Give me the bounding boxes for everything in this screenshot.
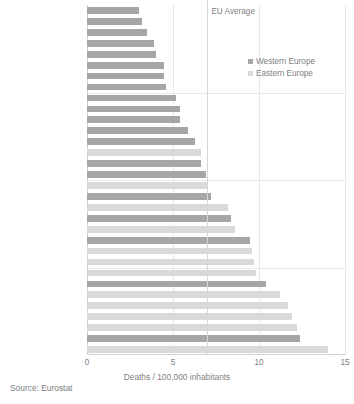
bar-germany[interactable] [87,62,164,69]
bar-poland[interactable] [87,302,288,309]
bar-malta[interactable] [87,29,147,36]
bar-greece[interactable] [87,335,300,342]
legend-item-western[interactable]: Western Europe [248,55,315,67]
bar-row [87,248,345,255]
bar-iceland[interactable] [87,51,156,58]
bar-austria[interactable] [87,171,206,178]
x-tick-0: 0 [85,358,90,367]
bar-france[interactable] [87,138,195,145]
gridline-y-16 [87,180,345,181]
bar-row [87,106,345,113]
bar-lithuania[interactable] [87,313,292,320]
eu-average-label: EU Average [211,7,255,16]
bar-row [87,193,345,200]
legend-label-western: Western Europe [256,57,315,66]
bar-netherlands[interactable] [87,84,166,91]
bar-row [87,95,345,102]
source-note: Source: Eurostat [10,383,72,393]
bar-belgium[interactable] [87,215,231,222]
x-tick-15: 15 [340,358,349,367]
bar-row [87,29,345,36]
bar-italy[interactable] [87,193,211,200]
bar-row [87,313,345,320]
bar-row [87,40,345,47]
bar-sweden[interactable] [87,7,139,14]
bar-denmark[interactable] [87,127,188,134]
bar-estonia[interactable] [87,182,207,189]
bar-row [87,291,345,298]
bar-norway[interactable] [87,116,180,123]
bar-row [87,226,345,233]
bar-luxembourg[interactable] [87,95,176,102]
bar-row [87,182,345,189]
legend-swatch-eastern-icon [248,71,253,76]
bar-fyr-macedonia[interactable] [87,149,201,156]
bar-chart: EU Average SwedenUnited KingdomMaltaIrel… [0,0,354,404]
gridline-y-24 [87,268,345,269]
bar-row [87,18,345,25]
gridline-x-15 [345,5,346,355]
gridline-y-8 [87,93,345,94]
bar-row [87,335,345,342]
bar-latvia[interactable] [87,324,297,331]
bar-spain[interactable] [87,106,180,113]
bar-row [87,281,345,288]
bar-finland[interactable] [87,160,201,167]
chart-legend: Western Europe Eastern Europe [248,55,315,79]
legend-item-eastern[interactable]: Eastern Europe [248,67,315,79]
bar-row [87,171,345,178]
x-tick-10: 10 [254,358,263,367]
bar-switzerland[interactable] [87,73,164,80]
bar-hungary[interactable] [87,270,256,277]
bar-row [87,138,345,145]
bar-row [87,346,345,353]
bar-row [87,237,345,244]
bar-row [87,324,345,331]
legend-swatch-western-icon [248,59,253,64]
bar-row [87,127,345,134]
x-axis-line [87,354,345,355]
bar-row [87,204,345,211]
bar-row [87,116,345,123]
bar-row [87,259,345,266]
bar-united-kingdom[interactable] [87,18,142,25]
bar-cyprus[interactable] [87,281,266,288]
bar-row [87,215,345,222]
bar-czech-republic[interactable] [87,226,235,233]
bar-portugal[interactable] [87,237,250,244]
bar-ireland[interactable] [87,40,154,47]
legend-label-eastern: Eastern Europe [256,69,313,78]
x-axis-title: Deaths / 100,000 inhabitants [0,372,354,382]
bar-row [87,302,345,309]
bar-row [87,149,345,156]
bar-row [87,160,345,167]
bar-row [87,84,345,91]
bar-croatia[interactable] [87,291,280,298]
eu-average-vline [207,0,208,355]
x-tick-5: 5 [171,358,176,367]
bar-bulgaria[interactable] [87,259,254,266]
bar-row [87,270,345,277]
bar-slovakia[interactable] [87,248,252,255]
